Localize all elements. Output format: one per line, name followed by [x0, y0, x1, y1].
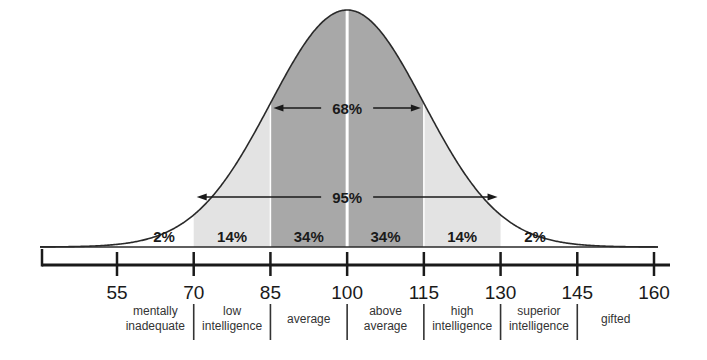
tick-label: 160 — [638, 282, 670, 303]
svg-text:average: average — [364, 319, 408, 333]
svg-text:average: average — [287, 312, 331, 326]
tick-label: 115 — [409, 282, 439, 303]
svg-text:mentally: mentally — [133, 304, 178, 318]
svg-text:superior: superior — [517, 304, 560, 318]
band-label: 2% — [524, 228, 546, 245]
category-low-intelligence: lowintelligence — [202, 304, 262, 333]
svg-text:above: above — [369, 304, 402, 318]
category-above-average: aboveaverage — [364, 304, 408, 333]
svg-text:intelligence: intelligence — [509, 319, 569, 333]
svg-text:intelligence: intelligence — [202, 319, 262, 333]
tick-label: 130 — [485, 282, 517, 303]
span-label: 68% — [332, 100, 362, 117]
band-label: 14% — [217, 228, 247, 245]
span-label: 95% — [332, 189, 362, 206]
band-label: 2% — [153, 228, 175, 245]
band-label: 14% — [447, 228, 477, 245]
category-high-intelligence: highintelligence — [432, 304, 492, 333]
category-average: average — [287, 312, 331, 326]
category-gifted: gifted — [601, 312, 630, 326]
svg-text:high: high — [451, 304, 474, 318]
svg-text:low: low — [223, 304, 241, 318]
shaded-bands — [194, 0, 501, 247]
band-label: 34% — [294, 228, 324, 245]
tick-label: 145 — [561, 282, 593, 303]
iq-bell-curve-chart: 68%95% 2%14%34%34%14%2% 5570851001151301… — [0, 0, 707, 360]
tick-label: 55 — [106, 282, 127, 303]
svg-text:inadequate: inadequate — [126, 319, 186, 333]
tick-label: 85 — [260, 282, 281, 303]
tick-label: 70 — [183, 282, 204, 303]
x-axis: 557085100115130145160 — [42, 249, 670, 303]
category-superior-intelligence: superiorintelligence — [509, 304, 569, 333]
arrow-right-icon — [488, 194, 498, 201]
category-mentally-inadequate: mentallyinadequate — [126, 304, 186, 333]
category-labels: mentallyinadequatelowintelligenceaverage… — [126, 304, 631, 340]
tick-label: 100 — [331, 282, 363, 303]
svg-text:gifted: gifted — [601, 312, 630, 326]
svg-text:intelligence: intelligence — [432, 319, 492, 333]
band-label: 34% — [370, 228, 400, 245]
arrow-left-icon — [197, 194, 207, 201]
